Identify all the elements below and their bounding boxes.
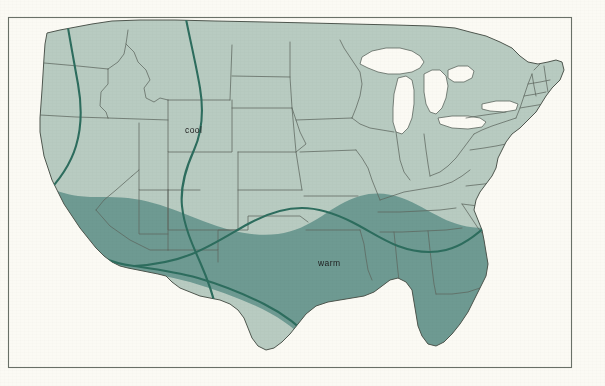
- warm-zone-label: warm: [317, 258, 340, 268]
- us-climate-zone-map: cool warm: [0, 0, 605, 386]
- thematic-map-figure: cool warm: [0, 0, 605, 386]
- cool-zone-label: cool: [185, 125, 202, 135]
